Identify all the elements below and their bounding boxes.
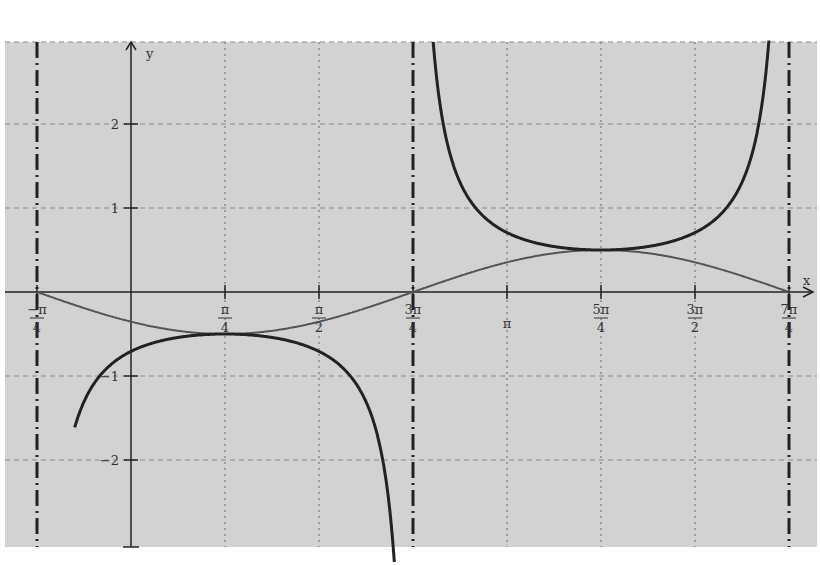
x-tick-label-num: π: [221, 302, 230, 317]
y-tick-label: 1: [111, 201, 119, 216]
x-tick-label-den: 4: [33, 320, 41, 335]
x-tick-label-num: 3π: [687, 302, 704, 317]
x-tick-label-num: −π: [27, 302, 47, 317]
x-tick-label-den: 4: [785, 320, 793, 335]
x-tick-label-num: 5π: [593, 302, 610, 317]
x-tick-label-num: 7π: [781, 302, 798, 317]
x-tick-label-den: 4: [221, 320, 229, 335]
y-axis-label: y: [145, 46, 154, 61]
x-tick-label-den: 4: [597, 320, 605, 335]
y-tick-label: −1: [100, 369, 119, 384]
y-tick-label: −2: [100, 453, 119, 468]
x-tick-label-den: 2: [315, 320, 323, 335]
chart: −π4π4π23π4π5π43π27π421−1−2 y x: [0, 0, 820, 565]
x-axis-label: x: [803, 273, 811, 288]
x-tick-label-num: 3π: [405, 302, 422, 317]
x-tick-label-den: 4: [409, 320, 417, 335]
y-tick-label: 2: [111, 117, 119, 132]
x-tick-label-den: 2: [691, 320, 699, 335]
x-tick-label-num: π: [315, 302, 324, 317]
x-tick-label: π: [503, 316, 512, 331]
